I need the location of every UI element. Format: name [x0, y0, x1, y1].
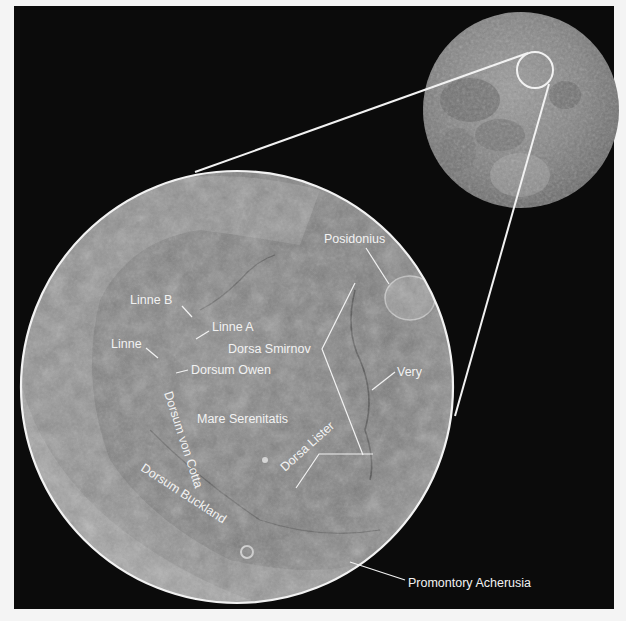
label-linne-a: Linne A [212, 320, 254, 334]
label-very: Very [397, 365, 423, 379]
moon-zoom-figure: Posidonius Linne B Linne A Linne Dorsa S… [0, 0, 626, 621]
mare-serenitatis-closeup [10, 160, 470, 620]
label-promontory-acherusia: Promontory Acherusia [408, 576, 531, 590]
label-posidonius: Posidonius [324, 232, 385, 246]
full-moon-image [420, 10, 620, 210]
leader-promontory-acherusia [350, 562, 405, 580]
label-dorsum-owen: Dorsum Owen [191, 363, 271, 377]
label-linne-b: Linne B [130, 293, 172, 307]
label-linne: Linne [111, 337, 142, 351]
label-mare-serenitatis: Mare Serenitatis [197, 412, 288, 426]
label-dorsa-smirnov: Dorsa Smirnov [228, 342, 311, 356]
